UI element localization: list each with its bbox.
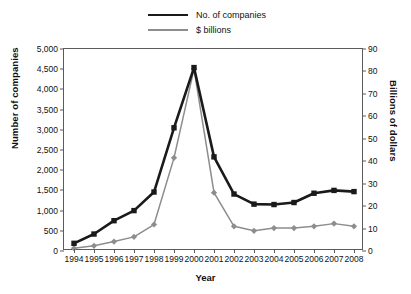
legend-label-dollar-billions: $ billions — [196, 25, 231, 35]
data-point-square — [211, 154, 216, 159]
data-point-square — [231, 191, 236, 196]
data-point-square — [291, 200, 296, 205]
data-point-diamond — [111, 238, 117, 244]
data-point-diamond — [271, 225, 277, 231]
x-axis-tick — [134, 249, 135, 253]
data-point-diamond — [351, 223, 357, 229]
x-axis-tick — [274, 249, 275, 253]
y-axis-tick-label-right: 70 — [362, 89, 377, 98]
x-axis-tick-label: 2002 — [225, 255, 244, 264]
legend-label-no-of-companies: No. of companies — [196, 10, 266, 20]
legend-line-icon — [148, 14, 188, 16]
legend-swatch-dollar-billions — [148, 24, 188, 36]
y-axis-tick-label-left: 500 — [44, 226, 64, 235]
y-axis-tick-label-left: 4,000 — [37, 85, 64, 94]
plot-area: 05001,0001,5002,0002,5003,0003,5004,0004… — [63, 48, 363, 250]
y-axis-tick-label-right: 40 — [362, 157, 377, 166]
x-axis-tick — [254, 249, 255, 253]
data-point-square — [351, 189, 356, 194]
y-axis-title-right: Billions of dollars — [388, 80, 399, 162]
x-axis-tick-label: 2006 — [305, 255, 324, 264]
data-point-square — [111, 218, 116, 223]
y-axis-tick-label-right: 60 — [362, 112, 377, 121]
x-axis-tick — [334, 249, 335, 253]
data-point-square — [271, 202, 276, 207]
x-axis-title: Year — [0, 272, 411, 283]
y-axis-tick-label-left: 5,000 — [37, 45, 64, 54]
data-point-square — [91, 231, 96, 236]
chart-legend: No. of companies $ billions — [148, 8, 318, 38]
data-point-square — [251, 201, 256, 206]
data-point-square — [191, 65, 196, 70]
data-point-diamond — [311, 223, 317, 229]
x-axis-tick-label: 1994 — [65, 255, 84, 264]
x-axis-tick — [294, 249, 295, 253]
data-point-diamond — [251, 228, 257, 234]
data-point-diamond — [171, 155, 177, 161]
data-point-diamond — [231, 223, 237, 229]
x-axis-tick-label: 1996 — [105, 255, 124, 264]
chart-canvas — [64, 49, 364, 251]
y-axis-tick-label-left: 4,500 — [37, 65, 64, 74]
y-axis-tick-label-right: 10 — [362, 224, 377, 233]
y-axis-tick-label-left: 0 — [53, 247, 64, 256]
x-axis-tick — [94, 249, 95, 253]
x-axis-tick-label: 2004 — [265, 255, 284, 264]
y-axis-tick-label-right: 0 — [362, 247, 373, 256]
x-axis-tick-label: 1997 — [125, 255, 144, 264]
x-axis-tick-label: 2007 — [325, 255, 344, 264]
legend-item-dollar-billions: $ billions — [148, 23, 318, 37]
y-axis-tick-label-right: 90 — [362, 45, 377, 54]
data-point-square — [131, 208, 136, 213]
data-point-diamond — [291, 225, 297, 231]
data-point-square — [71, 241, 76, 246]
data-point-diamond — [331, 221, 337, 227]
y-axis-title-left: Number of companies — [9, 47, 20, 149]
x-axis-tick — [354, 249, 355, 253]
y-axis-tick-label-right: 80 — [362, 67, 377, 76]
x-axis-tick — [234, 249, 235, 253]
x-axis-tick-label: 1998 — [145, 255, 164, 264]
data-point-square — [151, 189, 156, 194]
x-axis-tick — [174, 249, 175, 253]
y-axis-tick-label-right: 20 — [362, 202, 377, 211]
legend-swatch-no-of-companies — [148, 9, 188, 21]
x-axis-tick-label: 2003 — [245, 255, 264, 264]
y-axis-tick-label-left: 3,000 — [37, 125, 64, 134]
x-axis-tick — [314, 249, 315, 253]
x-axis-tick — [74, 249, 75, 253]
data-point-square — [331, 188, 336, 193]
y-axis-tick-label-left: 1,500 — [37, 186, 64, 195]
data-point-diamond — [211, 190, 217, 196]
y-axis-tick-label-left: 1,000 — [37, 206, 64, 215]
x-axis-tick-label: 1995 — [85, 255, 104, 264]
chart-figure: No. of companies $ billions 05001,0001,5… — [0, 0, 411, 294]
x-axis-tick-label: 2005 — [285, 255, 304, 264]
x-axis-tick-label: 2000 — [185, 255, 204, 264]
series-no-of-companies — [71, 65, 356, 246]
y-axis-tick-label-right: 50 — [362, 134, 377, 143]
x-axis-tick-label: 2001 — [205, 255, 224, 264]
x-axis-tick — [154, 249, 155, 253]
x-axis-tick-label: 2008 — [345, 255, 364, 264]
data-point-diamond — [91, 243, 97, 249]
data-point-square — [311, 191, 316, 196]
x-axis-tick — [114, 249, 115, 253]
y-axis-tick-label-left: 2,500 — [37, 146, 64, 155]
legend-line-icon — [148, 29, 188, 31]
x-axis-tick — [214, 249, 215, 253]
data-point-square — [171, 125, 176, 130]
y-axis-tick-label-right: 30 — [362, 179, 377, 188]
x-axis-tick-label: 1999 — [165, 255, 184, 264]
y-axis-tick-label-left: 2,000 — [37, 166, 64, 175]
y-axis-tick-label-left: 3,500 — [37, 105, 64, 114]
x-axis-tick — [194, 249, 195, 253]
legend-item-no-of-companies: No. of companies — [148, 8, 318, 22]
